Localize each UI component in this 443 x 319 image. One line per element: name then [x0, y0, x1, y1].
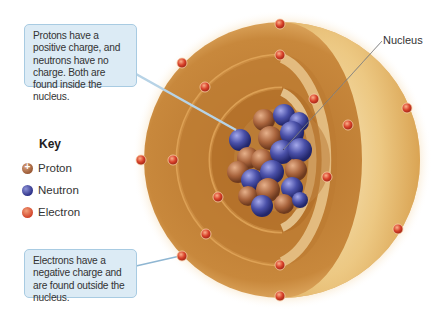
- neutron-icon: [22, 185, 33, 196]
- key-title: Key: [39, 137, 80, 151]
- key-item-neutron: Neutron: [22, 179, 80, 201]
- key-legend: Key Proton Neutron Electron: [22, 137, 80, 223]
- key-item-electron: Electron: [22, 201, 80, 223]
- key-item-label: Neutron: [38, 184, 79, 196]
- key-item-proton: Proton: [22, 157, 80, 179]
- callout-protons-neutrons: Protons have a positive charge, and neut…: [24, 24, 137, 87]
- nucleus-label: Nucleus: [383, 34, 423, 46]
- proton-icon: [22, 163, 33, 174]
- callout-electrons: Electrons have a negative charge and are…: [24, 249, 137, 298]
- atom-diagram: Protons have a positive charge, and neut…: [0, 0, 443, 319]
- key-item-label: Proton: [38, 162, 72, 174]
- callout-electrons-text: Electrons have a negative charge and are…: [33, 255, 125, 303]
- key-item-label: Electron: [38, 206, 80, 218]
- electron-icon: [22, 207, 33, 218]
